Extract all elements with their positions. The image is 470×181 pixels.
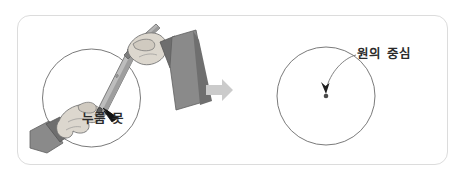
label-circle-center: 원의 중심 (357, 48, 411, 61)
right-sleeve (160, 30, 212, 110)
figure-root: 누름 못 원의 중심 (0, 0, 470, 181)
label-push-pin: 누름 못 (82, 113, 124, 126)
left-scene-group (30, 24, 212, 153)
illustration-svg (0, 0, 470, 181)
right-scene-group (277, 47, 375, 145)
leader-line (326, 55, 356, 90)
right-hand (128, 33, 167, 65)
circle-center-dot (324, 94, 329, 99)
illustration-stage (0, 0, 470, 181)
